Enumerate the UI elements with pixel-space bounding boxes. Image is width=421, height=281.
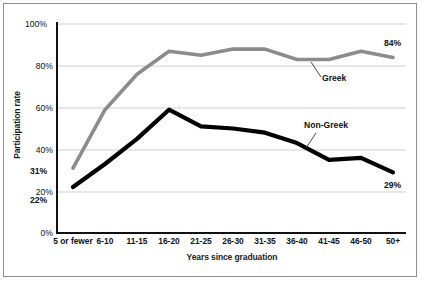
chart-figure: Participation rate Years since graduatio… <box>0 0 421 281</box>
y-tick-40: 40% <box>19 145 53 155</box>
data-label-greek-last: 84% <box>384 38 401 48</box>
annotation-nongreek: Non-Greek <box>304 120 348 130</box>
data-label-greek-first: 31% <box>30 166 47 176</box>
leader-line-nongreek <box>306 133 316 148</box>
y-axis-title: Participation rate <box>12 80 22 170</box>
leader-line-greek <box>311 62 321 77</box>
annotation-greek: Greek <box>322 73 346 83</box>
data-label-nongreek-last: 29% <box>384 180 401 190</box>
y-tick-100: 100% <box>13 19 47 29</box>
x-tick-50-plus: 50+ <box>369 236 417 246</box>
y-tick-80: 80% <box>19 61 53 71</box>
data-label-nongreek-first: 22% <box>30 195 47 205</box>
y-tick-60: 60% <box>19 103 53 113</box>
x-axis-title: Years since graduation <box>56 252 408 262</box>
